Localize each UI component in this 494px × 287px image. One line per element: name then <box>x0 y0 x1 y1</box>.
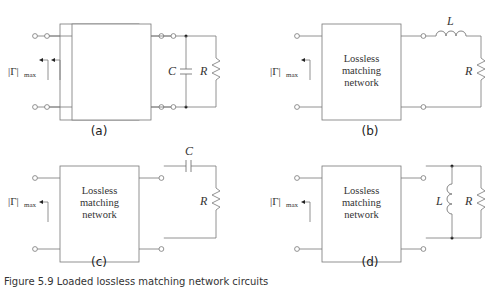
resistor-icon <box>212 36 220 107</box>
resistor-label: R <box>464 194 473 208</box>
panel-b-content: Lossless matching network |Γ| max L R (b… <box>270 14 485 138</box>
gamma-subscript: max <box>286 201 299 209</box>
resistor-icon <box>212 166 220 238</box>
resistor-label: R <box>199 64 208 78</box>
box-line-1: Lossless <box>82 185 118 196</box>
inductor-label: L <box>446 14 454 28</box>
gamma-label: |Γ| <box>270 195 281 207</box>
panel-label: (a) <box>91 124 108 138</box>
box-line-2: matching <box>342 65 382 76</box>
figure-caption: Figure 5.9 Loaded lossless matching netw… <box>4 276 268 287</box>
box-line-2: matching <box>80 197 120 208</box>
box-line-3: network <box>344 209 379 220</box>
box-line-3: network <box>344 77 379 88</box>
resistor-icon <box>477 166 485 238</box>
panel-d: Lossless matching network |Γ| max L R (d… <box>270 165 485 270</box>
box-line-1: Lossless <box>344 185 380 196</box>
gamma-subscript: max <box>24 201 37 209</box>
panel-label: (c) <box>91 255 107 269</box>
box-line-1: Lossless <box>344 53 380 64</box>
gamma-subscript: max <box>24 71 37 79</box>
gamma-label: |Γ| <box>8 65 19 77</box>
inductor-icon <box>436 31 466 36</box>
panel-label: (d) <box>362 255 379 269</box>
gamma-label: |Γ| <box>8 195 19 207</box>
inductor-icon <box>447 166 452 238</box>
capacitor-label: C <box>185 144 194 158</box>
resistor-label: R <box>464 64 473 78</box>
resistor-label: R <box>199 194 208 208</box>
inductor-label: L <box>435 194 443 208</box>
panel-c: Lossless matching network |Γ| max C R (c… <box>8 144 220 269</box>
panel-label: (b) <box>362 124 379 138</box>
gamma-subscript: max <box>286 71 299 79</box>
box-line-2: matching <box>342 197 382 208</box>
resistor-icon <box>477 36 485 107</box>
gamma-label: |Γ| <box>270 65 281 77</box>
capacitor-icon <box>180 36 192 107</box>
capacitor-label: C <box>168 64 177 78</box>
capacitor-icon <box>186 160 191 172</box>
box-line-3: network <box>82 209 117 220</box>
